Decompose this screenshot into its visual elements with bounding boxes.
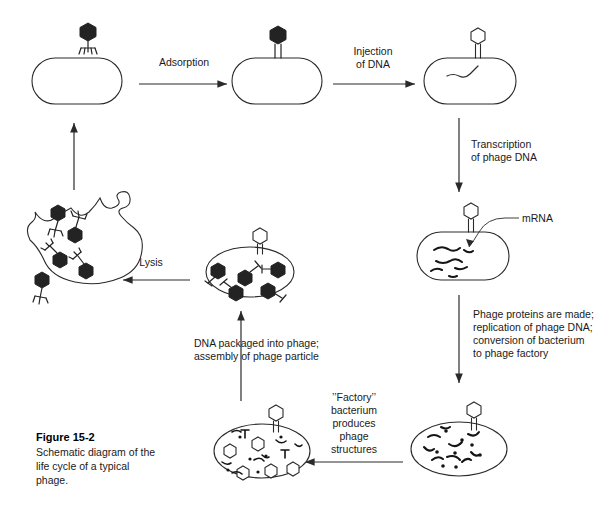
caption-line-3: phage. [36,474,68,486]
packaging-label-line2: assembly of phage particle [194,350,319,362]
injection-label-line1: Injection [353,45,392,57]
caption-line-1: Schematic diagram of the [36,446,155,458]
transcribing-bacterium-group: mRNA [417,203,553,280]
uninfected-bacterium [32,58,122,104]
transcription-step: Transcription of phage DNA [459,118,537,192]
adsorbed-phage [270,26,286,58]
adsorption-step: Adsorption [139,56,227,84]
factory-label-line2: bacterium [331,404,377,416]
released-phage [33,272,49,304]
phage-head-icon [464,203,478,219]
uninfected-bacterium-group [32,23,122,104]
phage-head-icon [80,23,96,41]
phage-head-icon [471,28,485,44]
lysis-label: Lysis [139,256,163,268]
protein-synthesis-step: Phage proteins are made; replication of … [459,295,594,383]
protein-label-line4: to phage factory [473,347,549,359]
assembling-structures-bacterium-group [214,405,310,480]
protein-label-line3: conversion of bacterium [473,334,585,346]
injection-label-line2: of DNA [356,58,390,70]
dna-injected-bacterium-group [424,28,516,104]
phage-adsorbed-bacterium-group [232,26,322,104]
packaging-step: DNA packaged into phage; assembly of pha… [194,311,319,401]
protein-label-line2: replication of phage DNA; [473,321,593,333]
free-phage [79,23,97,54]
transcribing-bacterium [417,232,509,280]
dna-injected-bacterium [424,58,516,104]
phage-adsorbed-bacterium [232,58,322,104]
phage-head-icon [269,405,283,421]
empty-phage-ghost [464,203,478,232]
factory-step: ’’Factory’’ bacterium produces phage str… [305,391,403,462]
phage-life-cycle-diagram: Adsorption Injection of DNA Transcriptio… [0,0,611,515]
phage-factory-bacterium-group [411,402,507,476]
phage-head-icon [253,228,267,244]
transcription-label-line2: of phage DNA [471,151,537,163]
phage-head-icon [270,26,286,44]
factory-label-line1: ’’Factory’’ [332,391,376,403]
assembled-phage-bacterium-group [205,228,294,302]
figure-caption: Figure 15-2 Schematic diagram of the lif… [36,431,155,486]
caption-line-2: life cycle of a typical [36,460,129,472]
adsorption-label: Adsorption [159,56,209,68]
figure-canvas: Adsorption Injection of DNA Transcriptio… [0,0,611,515]
factory-label-line3: produces [332,417,375,429]
factory-label-line5: structures [331,443,377,455]
transcription-label-line1: Transcription [471,138,531,150]
mrna-label: mRNA [522,212,553,224]
injection-step: Injection of DNA [333,45,415,84]
factory-label-line4: phage [339,430,368,442]
phage-head-icon [467,402,481,418]
packaging-label-line1: DNA packaged into phage; [194,337,319,349]
protein-label-line1: Phage proteins are made; [473,308,594,320]
lysing-bacterium-group [27,192,142,304]
empty-phage-ghost [471,28,485,58]
figure-number: Figure 15-2 [36,431,95,443]
